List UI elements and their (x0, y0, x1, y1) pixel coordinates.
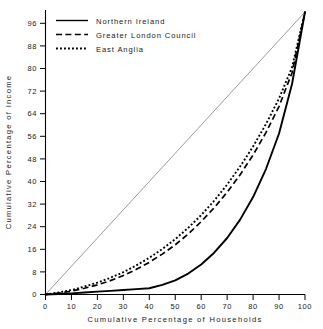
x-tick-label: 10 (67, 302, 77, 311)
x-axis-title: Cumulative Percentage of Households (87, 315, 262, 324)
legend-item-east-anglia: East Anglia (56, 45, 144, 54)
y-tick-label: 96 (27, 19, 37, 28)
y-tick-label: 40 (27, 177, 37, 186)
x-tick-label: 20 (93, 302, 103, 311)
line-of-equality (46, 12, 306, 295)
y-tick-label: 88 (27, 42, 37, 51)
x-tick-label: 0 (43, 302, 48, 311)
legend-label-greater-london-council: Greater London Council (96, 31, 196, 40)
y-tick-label: 0 (32, 290, 37, 299)
chart-axes (45, 10, 305, 295)
chart-figure: 081624324048566472808896 010203040506070… (0, 0, 323, 329)
y-tick-label: 8 (32, 268, 37, 277)
y-axis-ticks: 081624324048566472808896 (27, 19, 45, 299)
x-tick-label: 60 (196, 302, 206, 311)
legend-label-northern-ireland: Northern Ireland (96, 17, 165, 26)
y-tick-label: 16 (27, 245, 37, 254)
x-tick-label: 40 (145, 302, 155, 311)
x-tick-label: 90 (274, 302, 284, 311)
y-tick-label: 64 (27, 109, 37, 118)
legend-item-northern-ireland: Northern Ireland (56, 17, 165, 26)
y-axis-title: Cumulative Percentage of Income (4, 75, 13, 230)
x-tick-label: 100 (298, 302, 312, 311)
y-tick-label: 24 (27, 222, 37, 231)
x-tick-label: 50 (170, 302, 180, 311)
x-tick-label: 70 (222, 302, 232, 311)
x-tick-label: 30 (119, 302, 129, 311)
x-tick-label: 80 (248, 302, 258, 311)
y-tick-label: 80 (27, 64, 37, 73)
y-tick-label: 32 (27, 200, 37, 209)
y-tick-label: 48 (27, 155, 37, 164)
y-tick-label: 72 (27, 87, 37, 96)
x-axis-ticks: 0102030405060708090100 (43, 295, 312, 312)
chart-legend: Northern Ireland Greater London Council … (56, 17, 196, 54)
legend-label-east-anglia: East Anglia (96, 45, 144, 54)
y-tick-label: 56 (27, 132, 37, 141)
lorenz-curve-chart: 081624324048566472808896 010203040506070… (0, 0, 323, 329)
legend-item-greater-london-council: Greater London Council (56, 31, 196, 40)
